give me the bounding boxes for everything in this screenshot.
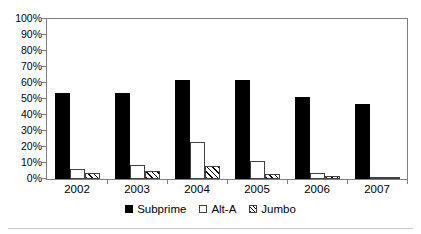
y-axis-tick-label: 70% — [0, 61, 42, 71]
bar-group-2005 — [227, 19, 287, 179]
bar-alt-a-2006 — [310, 173, 325, 179]
legend-entry-jumbo[interactable]: Jumbo — [249, 203, 296, 215]
x-axis-tick-label: 2002 — [47, 183, 107, 195]
x-axis-tick-label: 2003 — [107, 183, 167, 195]
bar-subprime-2002 — [55, 93, 70, 179]
y-axis-tick-label: 40% — [0, 109, 42, 119]
y-axis-tick-label: 0% — [0, 173, 42, 183]
y-axis: 0%10%20%30%40%50%60%70%80%90%100% — [0, 18, 42, 180]
bar-jumbo-2003 — [145, 171, 160, 179]
y-axis-tick-label: 80% — [0, 45, 42, 55]
legend-entry-alt-a[interactable]: Alt-A — [199, 203, 236, 215]
chart-legend: SubprimeAlt-AJumbo — [0, 201, 421, 217]
y-axis-tick-label: 100% — [0, 13, 42, 23]
bar-group-2003 — [107, 19, 167, 179]
bar-group-2004 — [167, 19, 227, 179]
x-axis-tick-mark — [407, 180, 408, 184]
bars-layer — [47, 19, 407, 179]
bar-group-2006 — [287, 19, 347, 179]
bar-group-2002 — [47, 19, 107, 179]
bar-alt-a-2005 — [250, 161, 265, 179]
bar-jumbo-2005 — [265, 174, 280, 179]
bar-subprime-2007 — [355, 104, 370, 179]
bar-alt-a-2003 — [130, 165, 145, 179]
x-axis-tick-label: 2004 — [167, 183, 227, 195]
hatched-square-icon — [249, 205, 257, 213]
bar-alt-a-2007 — [370, 177, 385, 179]
legend-entry-subprime[interactable]: Subprime — [125, 203, 186, 215]
bar-jumbo-2006 — [325, 176, 340, 179]
bar-jumbo-2004 — [205, 166, 220, 179]
y-axis-tick-label: 20% — [0, 141, 42, 151]
bar-subprime-2003 — [115, 93, 130, 179]
bar-subprime-2005 — [235, 80, 250, 179]
bar-group-2007 — [347, 19, 407, 179]
bar-alt-a-2004 — [190, 142, 205, 179]
y-axis-tick-label: 50% — [0, 93, 42, 103]
bar-jumbo-2002 — [85, 173, 100, 179]
x-axis-tick-label: 2007 — [347, 183, 407, 195]
empty-square-icon — [199, 205, 207, 213]
legend-label: Jumbo — [261, 203, 296, 215]
legend-label: Subprime — [137, 203, 186, 215]
caption-divider — [8, 228, 413, 229]
bar-alt-a-2002 — [70, 169, 85, 179]
x-axis-tick-label: 2006 — [287, 183, 347, 195]
legend-label: Alt-A — [211, 203, 236, 215]
filled-square-icon — [125, 205, 133, 213]
y-axis-tick-label: 60% — [0, 77, 42, 87]
bar-subprime-2004 — [175, 80, 190, 179]
bar-subprime-2006 — [295, 97, 310, 179]
x-axis: 200220032004200520062007 — [47, 183, 407, 199]
y-axis-tick-label: 10% — [0, 157, 42, 167]
bar-jumbo-2007 — [385, 177, 400, 179]
y-axis-tick-label: 90% — [0, 29, 42, 39]
y-axis-tick-label: 30% — [0, 125, 42, 135]
x-axis-tick-label: 2005 — [227, 183, 287, 195]
bar-chart-figure: 0%10%20%30%40%50%60%70%80%90%100% 200220… — [0, 0, 421, 234]
